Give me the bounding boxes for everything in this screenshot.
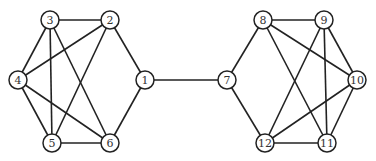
node-1: 1 — [136, 71, 154, 89]
edge-9-11 — [324, 20, 327, 143]
graph-diagram: 123456789101112 — [0, 0, 376, 161]
edge-6-1 — [110, 80, 145, 143]
node-label: 4 — [15, 74, 22, 87]
node-5: 5 — [43, 134, 61, 152]
node-label: 3 — [47, 14, 54, 27]
edge-9-12 — [265, 20, 324, 143]
node-label: 5 — [49, 137, 56, 150]
node-8: 8 — [254, 11, 272, 29]
edge-4-6 — [18, 80, 110, 143]
node-label: 7 — [224, 74, 231, 87]
node-9: 9 — [315, 11, 333, 29]
edges-layer — [18, 20, 357, 143]
edge-2-1 — [110, 20, 145, 80]
edge-7-12 — [227, 80, 265, 143]
nodes-layer: 123456789101112 — [9, 11, 366, 152]
edge-4-5 — [18, 80, 52, 143]
edge-3-4 — [18, 20, 50, 80]
edge-3-5 — [50, 20, 52, 143]
node-2: 2 — [101, 11, 119, 29]
node-7: 7 — [218, 71, 236, 89]
edge-9-10 — [324, 20, 357, 80]
edge-7-8 — [227, 20, 263, 80]
node-label: 12 — [258, 137, 272, 150]
node-label: 9 — [321, 14, 328, 27]
node-label: 8 — [260, 14, 267, 27]
node-12: 12 — [256, 134, 274, 152]
node-6: 6 — [101, 134, 119, 152]
node-label: 10 — [350, 74, 364, 87]
edge-10-12 — [265, 80, 357, 143]
node-label: 1 — [142, 74, 149, 87]
node-label: 11 — [320, 137, 334, 150]
node-label: 6 — [107, 137, 114, 150]
node-label: 2 — [107, 14, 114, 27]
node-4: 4 — [9, 71, 27, 89]
node-11: 11 — [318, 134, 336, 152]
node-10: 10 — [348, 71, 366, 89]
node-3: 3 — [41, 11, 59, 29]
